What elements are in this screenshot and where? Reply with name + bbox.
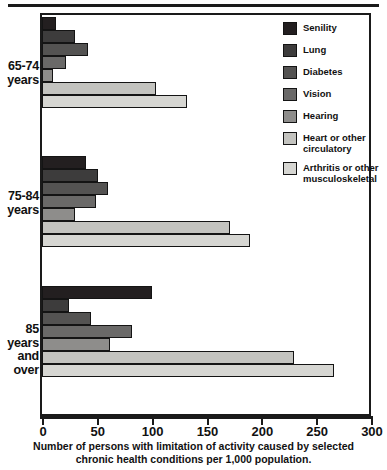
bar	[42, 56, 66, 69]
legend-item: Lung	[283, 44, 379, 58]
legend-label: Lung	[303, 44, 379, 55]
legend-item: Hearing	[283, 110, 379, 124]
legend-swatch-icon	[283, 88, 297, 101]
bar	[42, 156, 86, 169]
legend-swatch-icon	[283, 132, 297, 145]
x-tick-label: 200	[242, 424, 282, 439]
category-label-line: and	[0, 350, 39, 364]
category-label-line: years	[0, 204, 39, 218]
legend-item: Arthritis or other musculoskeletal	[283, 162, 379, 184]
legend-swatch-icon	[283, 44, 297, 57]
caption-line-2: chronic health conditions per 1,000 popu…	[14, 453, 373, 466]
bar	[42, 338, 110, 351]
bar	[42, 351, 294, 364]
category-label-line: 75-84	[0, 190, 39, 204]
legend-swatch-icon	[283, 66, 297, 79]
bar	[42, 234, 250, 247]
bar	[42, 169, 98, 182]
category-label-1: 65-74years	[0, 60, 39, 87]
category-label-line: 65-74	[0, 60, 39, 74]
legend-item: Diabetes	[283, 66, 379, 80]
bar	[42, 221, 230, 234]
legend-swatch-icon	[283, 110, 297, 123]
legend-label: Hearing	[303, 110, 379, 121]
bar	[42, 82, 156, 95]
legend-label: Diabetes	[303, 66, 379, 77]
x-tick-label: 50	[78, 424, 118, 439]
x-tick-label: 300	[352, 424, 387, 439]
legend-label: Senility	[303, 22, 379, 33]
bar	[42, 95, 187, 108]
legend-label: Heart or other circulatory	[303, 132, 379, 154]
category-label-3: 85yearsandover	[0, 323, 39, 377]
legend-swatch-icon	[283, 22, 297, 35]
x-tick-label: 150	[188, 424, 228, 439]
legend-swatch-icon	[283, 162, 297, 175]
x-tick-label: 100	[133, 424, 173, 439]
bar	[42, 30, 75, 43]
legend-item: Senility	[283, 22, 379, 36]
bar	[42, 182, 108, 195]
category-label-line: over	[0, 364, 39, 378]
legend-item: Vision	[283, 88, 379, 102]
category-label-line: years	[0, 74, 39, 88]
bar	[42, 17, 56, 30]
x-tick-label: 0	[23, 424, 63, 439]
category-label-line: years	[0, 337, 39, 351]
bar	[42, 364, 334, 377]
legend-item: Heart or other circulatory	[283, 132, 379, 154]
bar	[42, 208, 75, 221]
bar	[42, 299, 69, 312]
bar	[42, 43, 88, 56]
legend-label: Arthritis or other musculoskeletal	[303, 162, 379, 184]
legend-label: Vision	[303, 88, 379, 99]
x-axis-line	[40, 416, 371, 419]
category-label-line: 85	[0, 323, 39, 337]
x-tick-label: 250	[297, 424, 337, 439]
chart-root: 65-74years75-84years85yearsandover 05010…	[0, 0, 387, 470]
top-rule-divider	[8, 4, 379, 7]
caption-line-1: Number of persons with limitation of act…	[14, 440, 373, 453]
bar	[42, 195, 96, 208]
bar	[42, 286, 152, 299]
legend: SenilityLungDiabetesVisionHearingHeart o…	[283, 22, 379, 192]
chart-caption: Number of persons with limitation of act…	[0, 440, 387, 466]
category-label-2: 75-84years	[0, 190, 39, 217]
bar	[42, 325, 132, 338]
bar	[42, 69, 53, 82]
bar	[42, 312, 91, 325]
